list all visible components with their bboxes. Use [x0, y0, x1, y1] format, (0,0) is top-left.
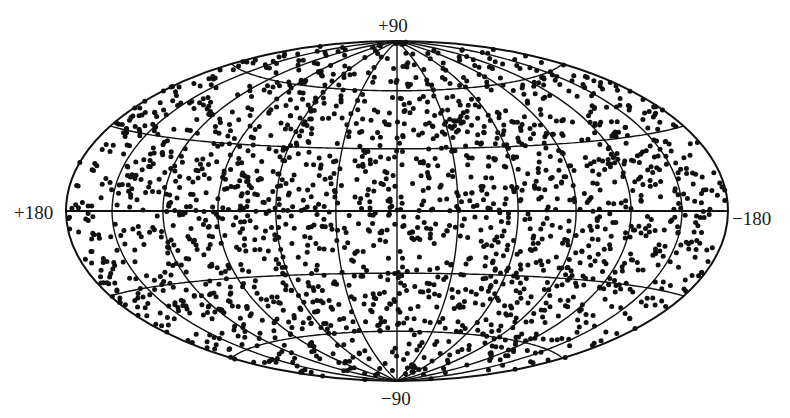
- source-point: [208, 113, 213, 118]
- source-point: [615, 157, 620, 162]
- source-point: [297, 90, 302, 95]
- source-point: [625, 133, 630, 138]
- source-point: [347, 66, 352, 71]
- source-point: [493, 141, 498, 146]
- source-point: [505, 247, 510, 252]
- source-point: [567, 198, 572, 203]
- source-point: [415, 225, 420, 230]
- source-point: [471, 57, 476, 62]
- source-point: [388, 196, 393, 201]
- source-point: [202, 209, 207, 214]
- source-point: [556, 148, 561, 153]
- source-point: [412, 332, 417, 337]
- source-point: [308, 321, 313, 326]
- source-point: [144, 273, 149, 278]
- source-point: [366, 227, 371, 232]
- source-point: [360, 162, 365, 167]
- source-point: [159, 229, 164, 234]
- source-point: [600, 269, 605, 274]
- source-point: [113, 222, 118, 227]
- source-point: [639, 231, 644, 236]
- source-point: [636, 224, 641, 229]
- source-point: [522, 287, 527, 292]
- source-point: [305, 187, 310, 192]
- source-point: [479, 287, 484, 292]
- source-point: [623, 204, 628, 209]
- source-point: [286, 90, 291, 95]
- source-point: [463, 85, 468, 90]
- source-point: [213, 124, 218, 129]
- source-point: [281, 208, 286, 213]
- source-point: [691, 182, 696, 187]
- source-point: [236, 64, 241, 69]
- source-point: [589, 195, 594, 200]
- source-point: [635, 260, 640, 265]
- source-point: [644, 233, 649, 238]
- source-point: [501, 253, 506, 258]
- source-point: [597, 207, 602, 212]
- source-point: [432, 113, 437, 118]
- source-point: [240, 268, 245, 273]
- source-point: [627, 316, 632, 321]
- source-point: [111, 143, 116, 148]
- source-point: [347, 213, 352, 218]
- source-point: [254, 169, 259, 174]
- source-point: [425, 99, 430, 104]
- source-point: [515, 275, 520, 280]
- source-point: [108, 271, 113, 276]
- source-point: [475, 116, 480, 121]
- source-point: [414, 156, 419, 161]
- source-point: [545, 216, 550, 221]
- source-point: [206, 305, 211, 310]
- source-point: [109, 187, 114, 192]
- source-point: [393, 346, 398, 351]
- source-point: [171, 285, 176, 290]
- source-point: [198, 162, 203, 167]
- source-point: [383, 361, 388, 366]
- source-point: [168, 200, 173, 205]
- source-point: [642, 110, 647, 115]
- source-point: [196, 176, 201, 181]
- source-point: [489, 329, 494, 334]
- source-point: [103, 176, 108, 181]
- source-point: [668, 259, 673, 264]
- source-point: [636, 177, 641, 182]
- source-point: [582, 191, 587, 196]
- source-point: [599, 338, 604, 343]
- source-point: [412, 284, 417, 289]
- source-point: [597, 214, 602, 219]
- source-point: [577, 308, 582, 313]
- source-point: [543, 145, 548, 150]
- source-point: [521, 92, 526, 97]
- source-point: [405, 351, 410, 356]
- source-point: [332, 171, 337, 176]
- source-point: [479, 239, 484, 244]
- source-point: [273, 237, 278, 242]
- source-point: [354, 121, 359, 126]
- source-point: [371, 243, 376, 248]
- source-point: [447, 352, 452, 357]
- source-point: [203, 282, 208, 287]
- source-point: [502, 229, 507, 234]
- source-point: [650, 170, 655, 175]
- source-point: [141, 208, 146, 213]
- source-point: [371, 302, 376, 307]
- source-point: [252, 237, 257, 242]
- source-point: [502, 303, 507, 308]
- source-point: [231, 67, 236, 72]
- source-point: [684, 171, 689, 176]
- source-point: [682, 286, 687, 291]
- source-point: [675, 224, 680, 229]
- source-point: [198, 84, 203, 89]
- source-point: [296, 68, 301, 73]
- source-point: [465, 115, 470, 120]
- source-point: [245, 213, 250, 218]
- source-point: [421, 67, 426, 72]
- source-point: [541, 83, 546, 88]
- source-point: [669, 149, 674, 154]
- source-point: [437, 293, 442, 298]
- source-point: [91, 168, 96, 173]
- source-point: [165, 251, 170, 256]
- source-point: [435, 163, 440, 168]
- source-point: [274, 149, 279, 154]
